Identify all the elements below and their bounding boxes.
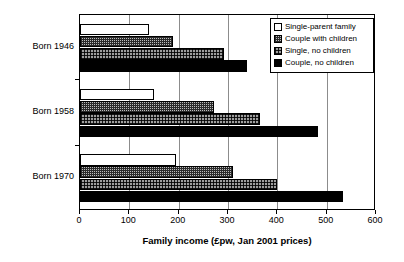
legend-item-label: Single, no children — [285, 46, 351, 56]
x-axis-tick-label: 0 — [59, 215, 99, 226]
legend-item[interactable]: Single, no children — [274, 45, 370, 57]
legend-item-label: Couple, no children — [285, 58, 354, 68]
bar — [80, 166, 233, 178]
x-axis-tick — [326, 210, 327, 214]
x-axis-tick-label: 100 — [108, 215, 148, 226]
legend-swatch-icon — [274, 59, 282, 67]
category-tick — [75, 145, 79, 146]
bar — [80, 36, 173, 48]
bar — [80, 191, 343, 203]
legend-item-label: Single-parent family — [285, 22, 356, 32]
bar — [80, 60, 247, 72]
x-axis-tick — [79, 210, 80, 214]
bar — [80, 179, 277, 191]
legend-swatch-icon — [274, 47, 282, 55]
x-axis-tick-label: 300 — [207, 215, 247, 226]
bar — [80, 48, 224, 60]
y-axis-category-label: Born 1970 — [6, 171, 74, 182]
bar — [80, 154, 176, 166]
bar — [80, 126, 318, 138]
legend: Single-parent family Couple with childre… — [270, 18, 374, 73]
x-axis-tick — [375, 210, 376, 214]
x-axis-tick — [227, 210, 228, 214]
legend-item[interactable]: Single-parent family — [274, 21, 370, 33]
legend-item[interactable]: Couple with children — [274, 33, 370, 45]
bar — [80, 101, 214, 113]
x-axis-tick-label: 500 — [306, 215, 346, 226]
x-axis-tick — [128, 210, 129, 214]
bar — [80, 89, 154, 101]
y-axis-category-label: Born 1958 — [6, 106, 74, 117]
bar — [80, 24, 149, 36]
legend-item[interactable]: Couple, no children — [274, 57, 370, 69]
category-tick — [75, 79, 79, 80]
y-axis-category-label: Born 1946 — [6, 41, 74, 52]
legend-swatch-icon — [274, 23, 282, 31]
legend-swatch-icon — [274, 35, 282, 43]
bar-chart-figure: 0100200300400500600 Born 1946Born 1958Bo… — [0, 0, 404, 262]
legend-item-label: Couple with children — [285, 34, 357, 44]
x-axis-tick-label: 200 — [158, 215, 198, 226]
x-axis-title: Family income (£pw, Jan 2001 prices) — [79, 235, 375, 247]
x-axis-tick-label: 400 — [256, 215, 296, 226]
x-axis-tick-label: 600 — [355, 215, 395, 226]
bar — [80, 113, 260, 125]
x-axis-tick — [276, 210, 277, 214]
x-axis-tick — [178, 210, 179, 214]
